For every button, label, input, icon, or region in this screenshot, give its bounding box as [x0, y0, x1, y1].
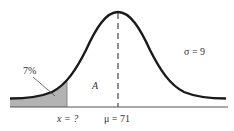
tail-percent-label: 7%: [23, 66, 36, 76]
sigma-label: σ = 9: [184, 47, 205, 57]
percent-pointer-line: [33, 77, 55, 96]
mean-label: μ = 71: [104, 114, 130, 124]
x-unknown-label: x = ?: [57, 114, 78, 124]
area-a-label: A: [92, 81, 98, 91]
shaded-tail-region: [10, 80, 67, 107]
